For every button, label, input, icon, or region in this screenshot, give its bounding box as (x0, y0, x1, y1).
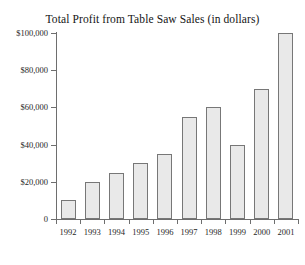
bar-2001 (278, 33, 293, 219)
y-axis-tick-label: $40,000 (20, 141, 48, 150)
bar-1996 (157, 154, 172, 219)
y-axis-tick-label: $100,000 (16, 29, 48, 38)
x-axis-tick (177, 219, 178, 224)
x-axis-tick (250, 219, 251, 224)
bar-chart-figure: Total Profit from Table Saw Sales (in do… (0, 0, 305, 265)
chart-title: Total Profit from Table Saw Sales (in do… (0, 12, 305, 26)
x-axis-tick-label: 1994 (104, 227, 128, 237)
x-axis-tick (201, 219, 202, 224)
bar-1993 (85, 182, 100, 219)
x-axis-tick-label: 1992 (56, 227, 80, 237)
x-axis-tick-label: 2001 (274, 227, 298, 237)
bar-2000 (254, 89, 269, 219)
bar-1994 (109, 173, 124, 220)
x-axis-tick (225, 219, 226, 224)
x-axis-tick-label: 1998 (201, 227, 225, 237)
x-axis-tick-label: 1995 (129, 227, 153, 237)
x-axis-tick (104, 219, 105, 224)
x-axis-tick (56, 219, 57, 224)
x-axis-tick (129, 219, 130, 224)
plot-area (56, 33, 298, 219)
x-axis-tick (274, 219, 275, 224)
bar-1997 (182, 117, 197, 219)
bar-1999 (230, 145, 245, 219)
bar-1995 (133, 163, 148, 219)
bar-1992 (61, 200, 76, 219)
y-axis-tick-label: $20,000 (20, 178, 48, 187)
y-axis-tick-label: 0 (44, 215, 48, 224)
x-axis-tick (80, 219, 81, 224)
x-axis-tick (298, 219, 299, 224)
x-axis-tick-label: 1997 (177, 227, 201, 237)
x-axis-tick-label: 1999 (225, 227, 249, 237)
x-axis-tick-label: 1996 (153, 227, 177, 237)
x-axis-tick-label: 1993 (80, 227, 104, 237)
x-axis-tick (153, 219, 154, 224)
y-axis-tick-label: $60,000 (20, 103, 48, 112)
x-axis-tick-label: 2000 (250, 227, 274, 237)
y-axis-tick-label: $80,000 (20, 66, 48, 75)
bar-1998 (206, 107, 221, 219)
